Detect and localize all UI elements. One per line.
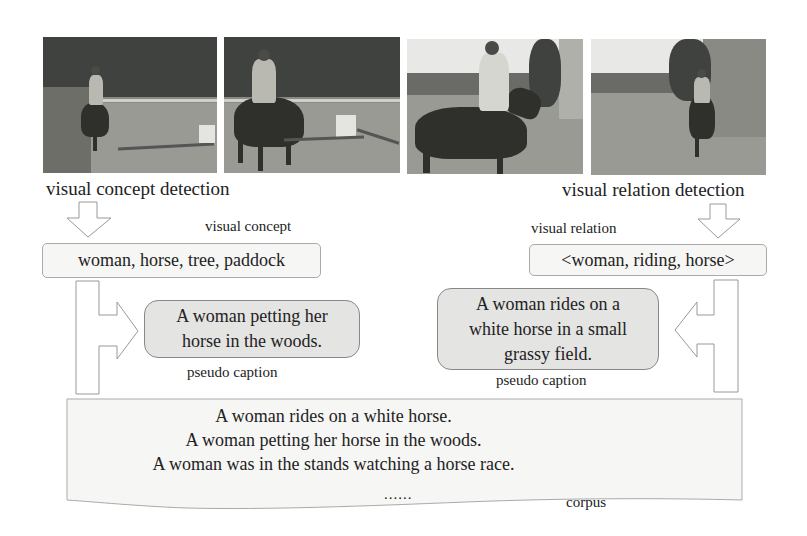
caption-line: horse in the woods. (176, 329, 327, 354)
pseudo-caption-left: A woman petting her horse in the woods. (144, 300, 360, 358)
visual-relation-box: <woman, riding, horse> (529, 244, 767, 276)
visual-concept-box: woman, horse, tree, paddock (42, 243, 321, 278)
visual-concept-value: woman, horse, tree, paddock (78, 250, 285, 271)
pseudo-caption-right-label: pseudo caption (496, 372, 586, 389)
photo-2 (224, 37, 400, 173)
corpus-line: A woman petting her horse in the woods. (67, 428, 600, 452)
caption-line: A woman rides on a (469, 292, 627, 317)
caption-line: white horse in a small (469, 317, 627, 342)
corpus-ellipsis: ...... (384, 486, 413, 503)
photo-1 (43, 37, 217, 173)
corpus-label: corpus (566, 494, 606, 511)
visual-relation-detection-label: visual relation detection (562, 179, 745, 201)
photo-4 (591, 39, 766, 175)
corpus-line: A woman rides on a white horse. (67, 404, 600, 428)
caption-line: A woman petting her (176, 304, 327, 329)
left-t-arrow-icon (668, 279, 740, 399)
visual-relation-label: visual relation (531, 220, 616, 237)
pseudo-caption-left-label: pseudo caption (187, 364, 277, 381)
right-t-arrow-icon (75, 280, 147, 400)
caption-line: grassy field. (469, 342, 627, 367)
photo-3 (407, 39, 583, 174)
visual-relation-value: <woman, riding, horse> (561, 250, 734, 271)
visual-concept-detection-label: visual concept detection (46, 178, 230, 200)
pseudo-caption-right: A woman rides on a white horse in a smal… (437, 288, 659, 370)
down-arrow-icon (696, 203, 744, 241)
corpus-line: A woman was in the stands watching a hor… (67, 452, 600, 476)
visual-concept-label: visual concept (205, 218, 291, 235)
down-arrow-icon (66, 201, 114, 239)
corpus-text: A woman rides on a white horse. A woman … (67, 404, 600, 476)
